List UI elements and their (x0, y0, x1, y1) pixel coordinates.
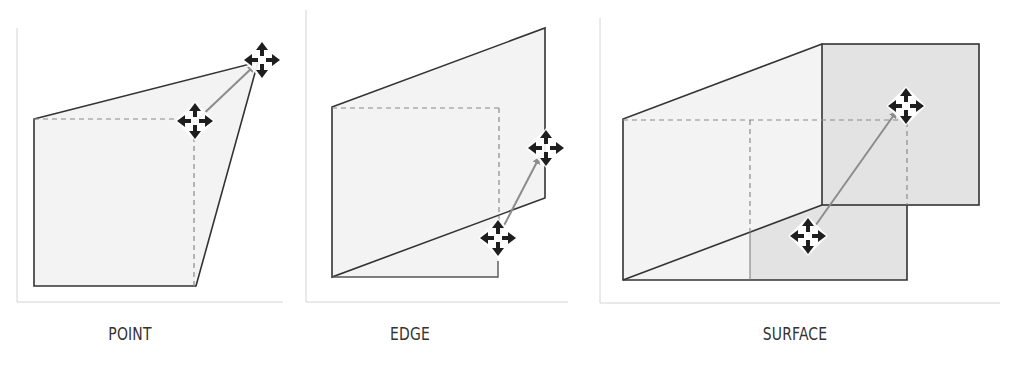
panel-label-point: POINT (108, 324, 151, 344)
transform-modes-figure (0, 0, 1010, 366)
diagram-stage: POINT EDGE SURFACE (0, 0, 1010, 366)
panel-label-edge: EDGE (390, 324, 430, 344)
panel-surface (600, 18, 1000, 303)
moved-surface (822, 44, 979, 205)
panel-label-surface: SURFACE (763, 324, 827, 344)
deformed-rectangle (34, 62, 258, 286)
panel-edge (306, 10, 568, 302)
panel-point (17, 28, 283, 302)
